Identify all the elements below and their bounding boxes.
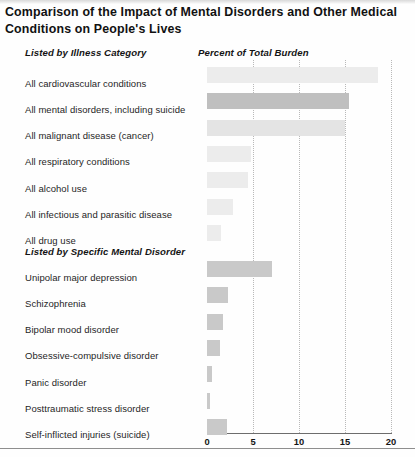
footer-divider bbox=[0, 448, 415, 449]
bar bbox=[207, 172, 248, 188]
bar bbox=[207, 261, 272, 277]
bar bbox=[207, 120, 345, 136]
row-label: Panic disorder bbox=[25, 377, 86, 388]
bar bbox=[207, 419, 227, 435]
row-label: All alcohol use bbox=[25, 183, 87, 194]
row-label: Posttraumatic stress disorder bbox=[25, 403, 149, 414]
page-title: Comparison of the Impact of Mental Disor… bbox=[5, 4, 411, 37]
row-label: All cardiovascular conditions bbox=[25, 78, 146, 89]
row-label: All mental disorders, including suicide bbox=[25, 104, 185, 115]
row-label: Schizophrenia bbox=[25, 298, 86, 309]
bar bbox=[207, 314, 223, 330]
axis-heading-percent-of-total-burden: Percent of Total Burden bbox=[198, 47, 309, 58]
row-label: Self-inflicted injuries (suicide) bbox=[25, 429, 150, 440]
section-heading-illness-category: Listed by Illness Category bbox=[25, 47, 147, 58]
gridline-5 bbox=[253, 60, 254, 433]
row-label: Obsessive-compulsive disorder bbox=[25, 350, 158, 361]
x-tick-label-5: 5 bbox=[250, 436, 255, 447]
gridline-10 bbox=[299, 60, 300, 433]
bar bbox=[207, 287, 228, 303]
x-tick-label-10: 10 bbox=[294, 436, 304, 447]
bar bbox=[207, 393, 210, 409]
plot-area: 05101520 bbox=[207, 60, 392, 433]
row-label: All malignant disease (cancer) bbox=[25, 130, 154, 141]
gridline-20 bbox=[391, 60, 392, 433]
bar bbox=[207, 225, 221, 241]
row-label: Bipolar mood disorder bbox=[25, 324, 119, 335]
x-tick-label-15: 15 bbox=[340, 436, 350, 447]
chart-page: Comparison of the Impact of Mental Disor… bbox=[0, 0, 415, 457]
row-label: All drug use bbox=[25, 235, 76, 246]
bar bbox=[207, 67, 378, 83]
section-heading-specific-mental-disorder: Listed by Specific Mental Disorder bbox=[25, 246, 185, 257]
bar bbox=[207, 93, 349, 109]
bar bbox=[207, 366, 212, 382]
x-tick-label-0: 0 bbox=[204, 436, 209, 447]
bar bbox=[207, 146, 251, 162]
gridline-15 bbox=[345, 60, 346, 433]
bar bbox=[207, 199, 233, 215]
bar bbox=[207, 340, 220, 356]
x-tick-label-20: 20 bbox=[386, 436, 396, 447]
x-axis-line bbox=[207, 433, 392, 434]
row-label: All infectious and parasitic disease bbox=[25, 209, 172, 220]
row-label: Unipolar major depression bbox=[25, 272, 137, 283]
row-label: All respiratory conditions bbox=[25, 156, 130, 167]
